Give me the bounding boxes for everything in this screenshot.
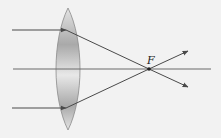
diagram-canvas: F — [0, 0, 221, 138]
focal-point — [147, 67, 151, 71]
focal-label: F — [146, 54, 155, 67]
top-ray — [12, 30, 188, 69]
lens-diagram: F — [0, 0, 221, 138]
bottom-ray — [12, 69, 188, 108]
